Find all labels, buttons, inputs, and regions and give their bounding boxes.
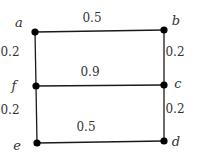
edge-fc <box>36 85 164 86</box>
node-b <box>160 26 167 33</box>
node-d <box>160 137 167 144</box>
edge-weight-bc: 0.2 <box>165 45 184 59</box>
node-c <box>160 81 167 88</box>
edge-weight-af: 0.2 <box>0 45 19 59</box>
node-e <box>33 139 40 146</box>
edge-weight-fc: 0.9 <box>80 65 99 79</box>
edge-ab <box>35 30 164 32</box>
edge-weight-ab: 0.5 <box>82 11 101 25</box>
edge-weight-ed: 0.5 <box>76 120 95 134</box>
node-label-f: f <box>11 78 19 93</box>
node-label-c: c <box>174 76 182 91</box>
edge-ed <box>37 141 164 143</box>
edge-weight-fe: 0.2 <box>0 103 19 117</box>
node-label-e: e <box>13 138 21 153</box>
node-a <box>31 28 38 35</box>
node-label-b: b <box>172 13 180 28</box>
node-f <box>32 82 39 89</box>
edge-weight-cd: 0.2 <box>165 102 184 116</box>
node-label-d: d <box>172 134 180 149</box>
edge-weights-group: 0.50.90.50.20.20.20.2 <box>0 11 184 134</box>
edges-group <box>35 30 164 143</box>
weighted-graph-diagram: 0.50.90.50.20.20.20.2 abcdef <box>0 0 203 159</box>
edge-af <box>35 32 36 86</box>
edge-fe <box>36 86 37 143</box>
node-label-a: a <box>15 15 23 30</box>
